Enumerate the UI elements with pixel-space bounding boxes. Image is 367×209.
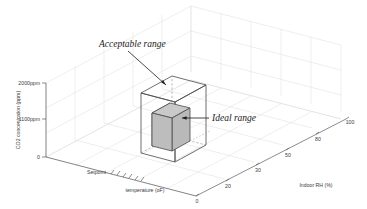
acceptable-range-annotation: Acceptable range bbox=[98, 39, 166, 85]
x-axis-title: temperature (oF) bbox=[126, 187, 165, 193]
x-axis-line bbox=[46, 157, 196, 196]
ideal-range-box bbox=[152, 103, 190, 151]
y-axis-title: Indoor RH (%) bbox=[299, 182, 332, 188]
z-tick-label-0: 0 bbox=[37, 154, 40, 160]
z-axis-ticks bbox=[42, 83, 46, 157]
z-tick-label-2000: 2000ppm bbox=[18, 80, 40, 86]
figure-canvas: 2000ppm 1100ppm 0 CO2 concentration (ppm… bbox=[0, 0, 367, 209]
z-tick-label-1100: 1100ppm bbox=[19, 116, 40, 122]
ideal-range-label: Ideal range bbox=[211, 113, 256, 123]
y-tick-label-50: 50 bbox=[285, 152, 291, 158]
grid-lines bbox=[46, 6, 341, 196]
y-tick-label-30: 30 bbox=[255, 167, 261, 173]
y-tick-label-80: 80 bbox=[315, 136, 321, 142]
axis-lines bbox=[46, 83, 346, 196]
x-axis-setpoint-label: Setpoint bbox=[87, 169, 107, 175]
z-axis-title: CO2 concentration (ppm) bbox=[15, 91, 21, 150]
acceptable-range-label: Acceptable range bbox=[98, 39, 166, 49]
y-tick-label-20: 20 bbox=[225, 183, 231, 189]
y-tick-label-0: 0 bbox=[196, 198, 199, 204]
y-tick-label-100: 100 bbox=[346, 119, 355, 125]
three-d-plot: 2000ppm 1100ppm 0 CO2 concentration (ppm… bbox=[0, 0, 367, 209]
